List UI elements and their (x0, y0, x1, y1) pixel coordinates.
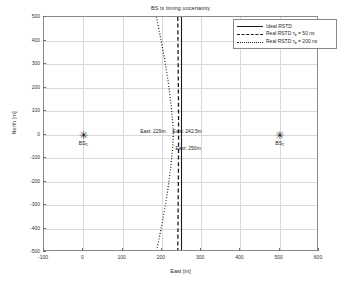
y-tick-label: -400 (17, 225, 40, 231)
y-tick-mark (43, 181, 46, 182)
legend-item-2: Real RSTD τb = 50 ns (237, 30, 333, 37)
legend-line-sample-dotted (237, 39, 263, 45)
y-tick-label: 0 (17, 131, 40, 137)
legend-label: Real RSTD τb = 50 ns (266, 30, 315, 37)
x-tick-label: 300 (185, 254, 215, 260)
x-tick-mark (200, 248, 201, 251)
y-tick-label: -300 (17, 201, 40, 207)
legend-label: Ideal RSTD (266, 23, 292, 29)
y-tick-mark (43, 63, 46, 64)
y-tick-label: 100 (17, 107, 40, 113)
annotation-1: East: 229m (140, 128, 165, 134)
y-tick-label: -500 (17, 248, 40, 254)
x-tick-mark (82, 248, 83, 251)
x-tick-label: -100 (28, 254, 58, 260)
bs-marker-2: ✳ (275, 132, 284, 137)
y-tick-mark (43, 110, 46, 111)
x-axis-label: East [m] (43, 268, 318, 274)
y-tick-label: 300 (17, 60, 40, 66)
y-tick-label: -100 (17, 154, 40, 160)
y-tick-mark (43, 134, 46, 135)
x-tick-label: 400 (224, 254, 254, 260)
x-tick-label: 0 (67, 254, 97, 260)
y-tick-label: 500 (17, 13, 40, 19)
y-tick-label: 400 (17, 37, 40, 43)
legend-item-3: Real RSTD τb = 200 ns (237, 38, 333, 45)
y-tick-mark (43, 251, 46, 252)
figure: BS tx timing uncertainty North [m] East … (0, 0, 348, 284)
legend-line-sample-dashed (237, 31, 263, 37)
x-tick-label: 100 (107, 254, 137, 260)
annotation-3: East: 250m (176, 145, 201, 151)
annotation-2: East: 242.5m (173, 128, 202, 134)
x-tick-mark (161, 248, 162, 251)
legend: Ideal RSTDReal RSTD τb = 50 nsReal RSTD … (233, 19, 337, 49)
y-tick-mark (43, 157, 46, 158)
y-tick-label: -200 (17, 178, 40, 184)
plot-area: ✳BS1✳BS2 East: 229mEast: 242.5mEast: 250… (43, 16, 318, 251)
chart-title: BS tx timing uncertainty (43, 5, 318, 11)
series-dashed (178, 17, 179, 251)
x-tick-mark (239, 248, 240, 251)
legend-line-sample-solid (237, 23, 263, 29)
y-tick-mark (43, 204, 46, 205)
y-tick-mark (43, 16, 46, 17)
x-tick-label: 200 (146, 254, 176, 260)
bs-label-1: BS1 (79, 140, 88, 146)
legend-item-1: Ideal RSTD (237, 22, 333, 29)
x-tick-mark (279, 248, 280, 251)
bs-marker-1: ✳ (79, 132, 88, 137)
x-tick-mark (122, 248, 123, 251)
x-tick-mark (318, 248, 319, 251)
series-dotted (156, 17, 173, 251)
x-tick-label: 500 (264, 254, 294, 260)
y-tick-mark (43, 228, 46, 229)
y-tick-mark (43, 40, 46, 41)
y-tick-mark (43, 87, 46, 88)
y-axis-label: North [m] (11, 93, 17, 153)
legend-label: Real RSTD τb = 200 ns (266, 38, 317, 45)
x-tick-label: 600 (303, 254, 333, 260)
bs-label-2: BS2 (275, 140, 284, 146)
y-tick-label: 200 (17, 84, 40, 90)
